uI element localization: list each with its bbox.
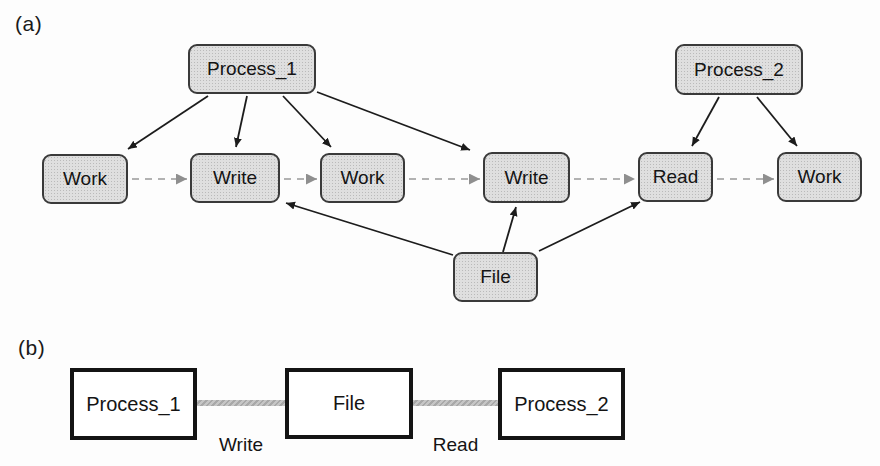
arrow-file-to-read <box>539 202 640 251</box>
arrow-process1-to-write2 <box>317 92 470 150</box>
node-process2-a: Process_2 <box>675 44 803 95</box>
node-work-3-label: Work <box>798 166 842 188</box>
node-work-3: Work <box>777 152 862 202</box>
node-process1-b-label: Process_1 <box>86 393 181 416</box>
panel-b-tag: (b) <box>18 336 45 360</box>
node-process2-b: Process_2 <box>498 368 625 440</box>
connector-process1-file <box>197 400 285 406</box>
node-work-1: Work <box>42 154 128 204</box>
arrow-process2-to-work3 <box>757 97 797 146</box>
node-process2-a-label: Process_2 <box>694 59 784 81</box>
node-file-b: File <box>285 368 413 439</box>
node-read: Read <box>638 152 713 202</box>
arrow-process1-to-write1 <box>236 96 247 147</box>
node-process1-a: Process_1 <box>188 44 316 94</box>
node-write-1-label: Write <box>213 167 257 189</box>
arrow-file-to-write1 <box>286 203 453 255</box>
node-process1-a-label: Process_1 <box>207 58 297 80</box>
edge-label-write: Write <box>197 434 285 456</box>
node-read-label: Read <box>653 166 698 188</box>
node-file-a-label: File <box>480 266 511 288</box>
figure-canvas: (a) Process_1 Process_2 Work Write Work … <box>0 0 880 466</box>
edge-label-read: Read <box>413 434 498 456</box>
node-write-2-label: Write <box>505 167 549 189</box>
connector-file-process2 <box>413 400 498 406</box>
node-work-2: Work <box>320 153 405 203</box>
arrow-process1-to-work2 <box>283 96 331 147</box>
node-work-2-label: Work <box>341 167 385 189</box>
node-write-1: Write <box>190 153 280 203</box>
node-work-1-label: Work <box>63 168 107 190</box>
node-process2-b-label: Process_2 <box>514 393 609 416</box>
arrow-process2-to-read <box>692 97 719 146</box>
arrow-process1-to-work1 <box>128 96 208 149</box>
arrow-file-to-write2 <box>503 207 516 252</box>
node-write-2: Write <box>483 152 570 203</box>
node-process1-b: Process_1 <box>70 368 197 440</box>
node-file-b-label: File <box>333 392 365 415</box>
node-file-a: File <box>453 252 538 302</box>
panel-a-tag: (a) <box>15 12 42 36</box>
